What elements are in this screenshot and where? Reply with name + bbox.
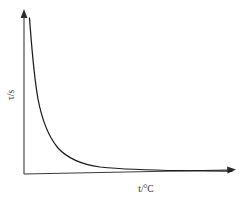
- x-axis-label: t/°C: [138, 184, 153, 194]
- y-axis-label: τ/s: [6, 90, 16, 100]
- y-axis-label-group: τ/s: [6, 90, 16, 100]
- x-axis-arrow-icon: [227, 166, 236, 173]
- plot-svg: t/°C τ/s: [0, 0, 250, 203]
- figure-container: t/°C τ/s: [0, 0, 250, 203]
- decay-curve: [30, 18, 233, 171]
- y-axis-arrow-icon: [21, 9, 28, 18]
